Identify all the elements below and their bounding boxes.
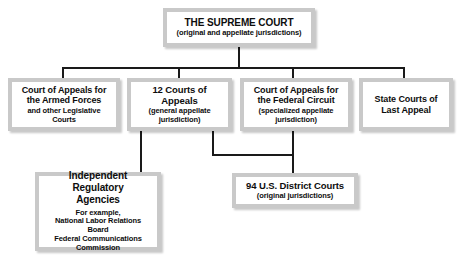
node-state-courts-last-appeal[interactable]: State Courts ofLast Appeal bbox=[359, 78, 453, 131]
node-title: Court of Appeals forthe Armed Forces bbox=[22, 85, 107, 106]
node-subtitle: (original jurisdictions) bbox=[257, 192, 333, 201]
court-system-diagram: THE SUPREME COURT (original and appellat… bbox=[0, 0, 461, 267]
node-title: 12 Courts of Appeals bbox=[134, 84, 225, 106]
connector-top-bus bbox=[62, 67, 404, 69]
node-subtitle: (original and appellate jurisdictions) bbox=[177, 29, 302, 38]
node-title: State Courts ofLast Appeal bbox=[374, 94, 437, 115]
connector-district-bus bbox=[212, 154, 294, 156]
node-subtitle: (specialized appellatejurisdiction) bbox=[259, 107, 334, 125]
node-subtitle: and other LegislativeCourts bbox=[28, 107, 101, 125]
node-subtitle: For example,National Labor RelationsBoar… bbox=[54, 209, 141, 253]
node-12-courts-of-appeals[interactable]: 12 Courts of Appeals (general appellatej… bbox=[127, 78, 232, 131]
connector-12-courts-to-agencies bbox=[140, 131, 142, 173]
node-subtitle: (general appellatejurisdiction) bbox=[149, 107, 211, 125]
connector-federal-circuit-to-district bbox=[292, 131, 294, 174]
node-supreme-court[interactable]: THE SUPREME COURT (original and appellat… bbox=[163, 8, 315, 47]
node-title: Court of Appeals forthe Federal Circuit bbox=[254, 85, 339, 106]
node-title: 94 U.S. District Courts bbox=[246, 180, 344, 191]
node-94-us-district-courts[interactable]: 94 U.S. District Courts (original jurisd… bbox=[232, 173, 358, 208]
node-title: Independent RegulatoryAgencies bbox=[42, 170, 154, 205]
node-title: THE SUPREME COURT bbox=[185, 17, 294, 29]
connector-supreme-to-bus bbox=[238, 47, 240, 68]
node-court-appeals-federal-circuit[interactable]: Court of Appeals forthe Federal Circuit … bbox=[240, 78, 352, 131]
connector-12-courts-to-district-stub bbox=[212, 131, 214, 155]
node-court-appeals-armed-forces[interactable]: Court of Appeals forthe Armed Forces and… bbox=[8, 78, 120, 131]
node-independent-regulatory-agencies[interactable]: Independent RegulatoryAgencies For examp… bbox=[35, 172, 161, 251]
